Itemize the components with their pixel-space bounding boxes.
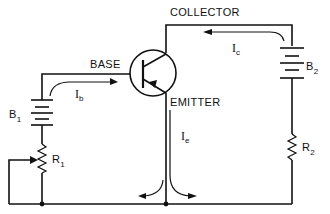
current-arrow-ic <box>203 29 284 41</box>
label-b1: B1 <box>9 108 22 124</box>
label-ic: Ic <box>232 41 240 57</box>
base-wire <box>42 74 130 100</box>
ground-wire <box>9 202 292 207</box>
collector-wire <box>166 25 292 53</box>
battery-b1 <box>31 100 53 144</box>
label-b2: B2 <box>306 60 319 76</box>
resistor-r1 <box>9 144 46 204</box>
battery-b2 <box>280 48 304 134</box>
wiper-arrow-icon <box>30 156 38 164</box>
label-ib: Ib <box>75 87 84 103</box>
circuit-diagram: B2 R2 BASE COLLECTOR EMITTER B1 <box>0 0 330 214</box>
transistor <box>130 50 176 96</box>
current-arrow-ie <box>138 110 197 199</box>
label-base: BASE <box>90 58 121 70</box>
label-emitter: EMITTER <box>170 96 220 108</box>
current-arrow-ib <box>50 78 118 96</box>
label-collector: COLLECTOR <box>170 6 240 18</box>
resistor-r2 <box>288 134 296 204</box>
label-ie: Ie <box>181 129 190 145</box>
label-r1: R1 <box>52 153 65 169</box>
label-r2: R2 <box>302 141 315 157</box>
